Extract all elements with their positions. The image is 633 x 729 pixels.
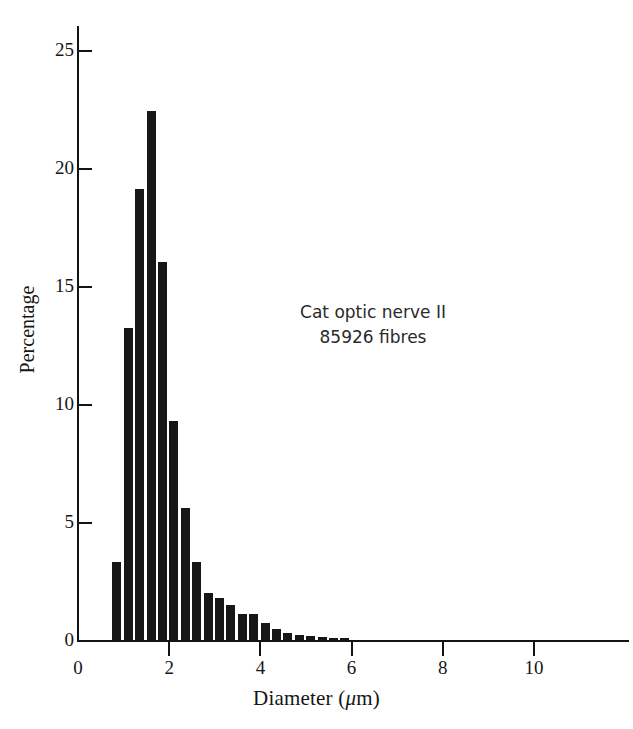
y-tick-label: 0 [32,630,74,649]
x-axis-title: Diameter (μm) [0,686,633,711]
chart-figure: 0510152025 0246810 Percentage Diameter (… [0,0,633,729]
bar [295,635,304,640]
bar [272,629,281,640]
y-axis-title: Percentage [16,240,39,420]
bar [238,614,247,640]
bar [204,593,213,640]
x-axis-title-text: Diameter (μm) [253,686,380,710]
bar [147,111,156,640]
x-tick-mark [533,642,535,656]
y-tick-label: 5 [32,512,74,531]
x-tick-label-4: 4 [240,658,280,677]
x-tick-label-0: 0 [58,658,98,677]
bar [283,633,292,640]
bar [215,598,224,640]
bar [318,637,327,640]
bar [124,328,133,640]
y-tick-mark [79,168,92,170]
x-tick-label-8: 8 [423,658,463,677]
bar [249,614,258,640]
bar [181,508,190,640]
bar [306,636,315,640]
bar [261,623,270,640]
y-tick-label: 25 [32,40,74,59]
y-tick-mark [79,50,92,52]
x-tick-label-10: 10 [514,658,554,677]
bar [112,562,121,640]
chart-annotation: Cat optic nerve II 85926 fibres [258,300,488,349]
bar [135,189,144,640]
bar [158,262,167,640]
x-tick-mark [442,642,444,656]
y-tick-mark [79,404,92,406]
x-tick-mark [259,642,261,656]
plot-area: 0510152025 0246810 Percentage Diameter (… [0,0,633,729]
x-tick-mark [168,642,170,656]
y-tick-mark [79,286,92,288]
y-axis-line [77,26,79,642]
x-tick-mark [351,642,353,656]
bar [329,638,338,640]
annotation-line-1: Cat optic nerve II [258,300,488,325]
annotation-line-2: 85926 fibres [258,325,488,350]
y-tick-label: 20 [32,158,74,177]
bar [192,562,201,640]
bar [169,421,178,640]
bar [340,638,349,640]
x-tick-label-6: 6 [332,658,372,677]
bar [226,605,235,640]
y-tick-mark [79,522,92,524]
x-tick-label-2: 2 [149,658,189,677]
x-axis-line [77,640,629,642]
